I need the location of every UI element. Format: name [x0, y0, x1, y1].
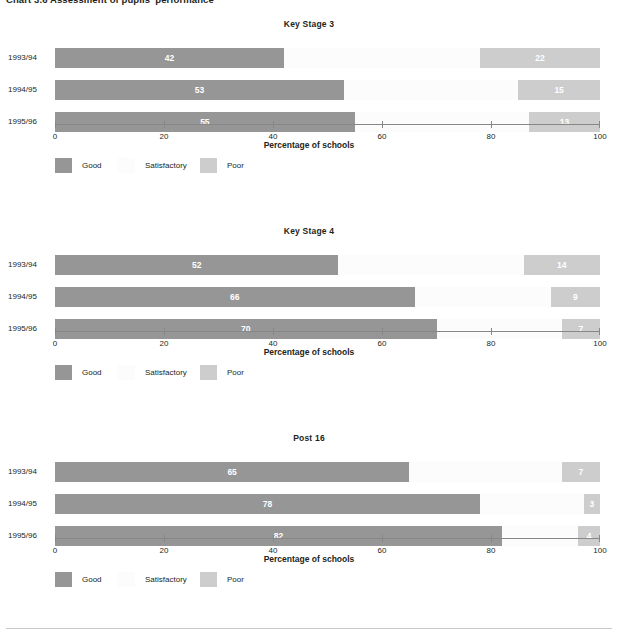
bar-value-label: 78 — [263, 500, 272, 509]
legend-item-satisfactory[interactable]: Satisfactory — [118, 156, 187, 174]
bar-track: 4222 — [55, 48, 600, 68]
bar-segment-good: 42 — [55, 48, 284, 68]
category-label: 1995/96 — [8, 317, 50, 341]
legend-item-poor[interactable]: Poor — [200, 570, 244, 588]
bar-value-label: 9 — [573, 293, 578, 302]
legend-label: Poor — [227, 575, 244, 584]
legend-label: Satisfactory — [145, 368, 187, 377]
x-axis: 020406080100 — [55, 538, 600, 539]
bar-segment-good: 70 — [55, 319, 437, 339]
x-axis-title: Percentage of schools — [0, 140, 618, 150]
axis-tick — [599, 121, 600, 128]
legend-item-poor[interactable]: Poor — [200, 156, 244, 174]
axis-tick — [164, 535, 165, 542]
axis-tick — [599, 535, 600, 542]
category-label: 1994/95 — [8, 492, 50, 516]
chart-title: Key Stage 3 — [0, 18, 618, 30]
legend-swatch-satisfactory — [118, 572, 135, 587]
chart-panel: Key Stage 31993/9442221994/9553151995/96… — [0, 18, 618, 150]
chart-row: 1995/965513 — [0, 110, 618, 134]
legend-swatch-satisfactory — [118, 365, 135, 380]
category-label: 1995/96 — [8, 110, 50, 134]
bar-segment-satisfactory — [409, 462, 562, 482]
category-label: 1995/96 — [8, 524, 50, 548]
bar-value-label: 66 — [230, 293, 239, 302]
legend-label: Good — [82, 161, 102, 170]
chart-row: 1993/94657 — [0, 460, 618, 484]
axis-tick — [164, 121, 165, 128]
plot-area: 1993/946571994/957831995/968240204060801… — [0, 452, 618, 564]
bar-segment-satisfactory — [355, 112, 529, 132]
bar-segment-poor: 14 — [524, 255, 600, 275]
legend-label: Poor — [227, 368, 244, 377]
bar-segment-poor: 4 — [578, 526, 600, 546]
x-axis-title: Percentage of schools — [0, 347, 618, 357]
bar-segment-poor: 13 — [529, 112, 600, 132]
chart-title: Key Stage 4 — [0, 225, 618, 237]
legend-item-good[interactable]: Good — [55, 570, 102, 588]
bar-track: 5513 — [55, 112, 600, 132]
bar-track: 783 — [55, 494, 600, 514]
bar-track: 824 — [55, 526, 600, 546]
axis-tick — [55, 121, 56, 128]
legend-swatch-good — [55, 365, 72, 380]
bar-value-label: 15 — [554, 86, 563, 95]
bar-track: 669 — [55, 287, 600, 307]
legend-item-good[interactable]: Good — [55, 156, 102, 174]
bar-segment-satisfactory — [502, 526, 578, 546]
legend-swatch-poor — [200, 365, 217, 380]
legend-swatch-poor — [200, 572, 217, 587]
bar-segment-good: 66 — [55, 287, 415, 307]
bar-segment-satisfactory — [415, 287, 551, 307]
axis-tick — [273, 121, 274, 128]
bar-segment-poor: 3 — [584, 494, 600, 514]
legend-item-satisfactory[interactable]: Satisfactory — [118, 570, 187, 588]
bar-segment-satisfactory — [338, 255, 523, 275]
chart-row: 1994/95783 — [0, 492, 618, 516]
axis-tick — [599, 328, 600, 335]
bar-segment-good: 53 — [55, 80, 344, 100]
bar-track: 657 — [55, 462, 600, 482]
chart-row: 1994/95669 — [0, 285, 618, 309]
bar-segment-satisfactory — [344, 80, 518, 100]
axis-tick — [491, 328, 492, 335]
axis-tick — [164, 328, 165, 335]
plot-area: 1993/9442221994/9553151995/9655130204060… — [0, 38, 618, 150]
axis-tick — [382, 121, 383, 128]
category-label: 1993/94 — [8, 253, 50, 277]
axis-tick — [273, 535, 274, 542]
chart-row: 1995/96707 — [0, 317, 618, 341]
bar-segment-poor: 7 — [562, 462, 600, 482]
legend-item-good[interactable]: Good — [55, 363, 102, 381]
plot-area: 1993/9452141994/956691995/96707020406080… — [0, 245, 618, 357]
bar-track: 707 — [55, 319, 600, 339]
legend-swatch-satisfactory — [118, 158, 135, 173]
chart-title: Post 16 — [0, 432, 618, 444]
axis-tick — [491, 121, 492, 128]
bar-segment-good: 65 — [55, 462, 409, 482]
figure-caption: Chart 3.6 Assessment of pupils' performa… — [6, 0, 214, 5]
chart-row: 1993/944222 — [0, 46, 618, 70]
category-label: 1994/95 — [8, 78, 50, 102]
category-label: 1993/94 — [8, 460, 50, 484]
legend-swatch-poor — [200, 158, 217, 173]
bar-track: 5214 — [55, 255, 600, 275]
bar-segment-poor: 9 — [551, 287, 600, 307]
bar-value-label: 53 — [195, 86, 204, 95]
legend-item-poor[interactable]: Poor — [200, 363, 244, 381]
bar-track: 5315 — [55, 80, 600, 100]
bar-segment-good: 82 — [55, 526, 502, 546]
legend-label: Good — [82, 368, 102, 377]
axis-tick — [55, 535, 56, 542]
legend-swatch-good — [55, 158, 72, 173]
x-axis-title: Percentage of schools — [0, 554, 618, 564]
legend-label: Poor — [227, 161, 244, 170]
x-axis: 020406080100 — [55, 124, 600, 125]
bar-value-label: 22 — [535, 54, 544, 63]
bar-value-label: 14 — [557, 261, 566, 270]
axis-tick — [382, 535, 383, 542]
legend-item-satisfactory[interactable]: Satisfactory — [118, 363, 187, 381]
axis-tick — [382, 328, 383, 335]
category-label: 1994/95 — [8, 285, 50, 309]
bar-segment-poor: 22 — [480, 48, 600, 68]
